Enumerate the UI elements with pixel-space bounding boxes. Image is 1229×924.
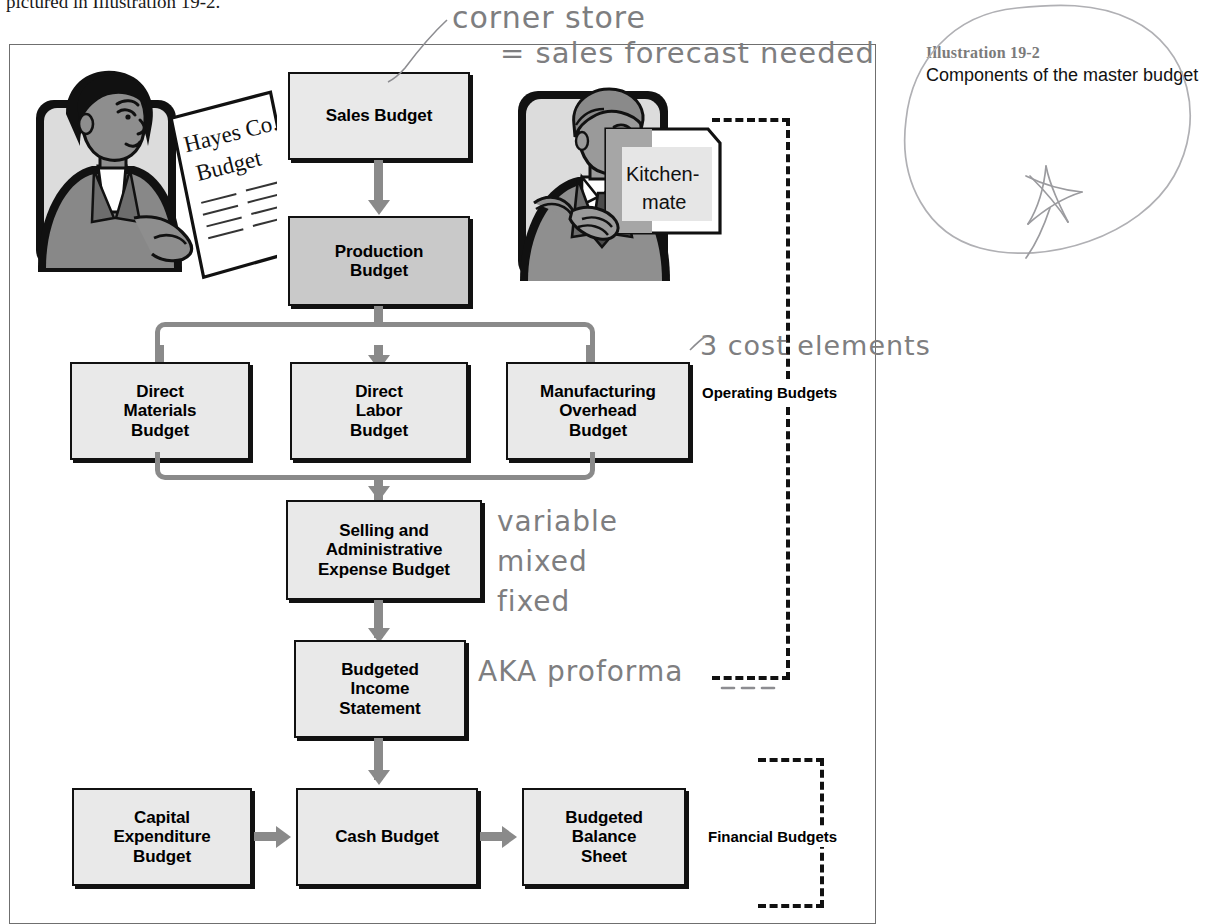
arrowhead-right-icon <box>502 826 517 848</box>
flow-box-manufacturing-overhead-budget[interactable]: ManufacturingOverheadBudget <box>506 362 690 460</box>
arrowhead-right-icon <box>276 826 291 848</box>
bracket-top-segment <box>758 758 824 762</box>
annotation-sales-forecast-needed: = sales forecast needed <box>500 36 875 70</box>
annotation-star <box>1026 166 1082 258</box>
annotation-three-cost-elements: 3 cost elements <box>700 330 931 361</box>
flow-box-label: Selling andAdministrativeExpense Budget <box>318 521 450 579</box>
arrowhead-down-icon <box>368 486 390 501</box>
flow-box-label: ProductionBudget <box>335 242 424 280</box>
page-cutoff-text: pictured in Illustration 19-2. <box>6 0 526 13</box>
svg-text:mate: mate <box>642 191 686 213</box>
arrow-capital-expenditure-to-cash <box>254 832 278 841</box>
illustration-caption: Illustration 19-2 Components of the mast… <box>926 44 1226 87</box>
annotation-mixed: mixed <box>497 545 588 578</box>
flow-box-label: BudgetedBalanceSheet <box>565 808 643 866</box>
connector-rail-bottom <box>155 452 595 480</box>
flow-box-budgeted-balance-sheet[interactable]: BudgetedBalanceSheet <box>522 788 686 886</box>
flow-box-cash-budget[interactable]: Cash Budget <box>296 788 478 886</box>
flow-box-direct-labor-budget[interactable]: DirectLaborBudget <box>290 362 468 460</box>
clipart-man-with-product-box: Kitchen- mate <box>512 85 728 300</box>
flow-box-label: DirectMaterialsBudget <box>124 382 197 440</box>
caption-title: Components of the master budget <box>926 64 1226 87</box>
annotation-circle-around-caption <box>905 5 1191 253</box>
arrowhead-down-icon <box>368 200 390 215</box>
clipart-woman-with-budget: Hayes Co. Budget <box>22 62 277 320</box>
arrow-cash-to-balance-sheet <box>480 832 504 841</box>
bracket-top-segment <box>712 118 790 122</box>
flow-box-direct-materials-budget[interactable]: DirectMaterialsBudget <box>70 362 250 460</box>
flow-box-label: DirectLaborBudget <box>350 382 408 440</box>
flow-box-budgeted-income-statement[interactable]: BudgetedIncomeStatement <box>294 640 466 738</box>
flow-box-label: Cash Budget <box>335 827 439 846</box>
flow-box-label: ManufacturingOverheadBudget <box>540 382 656 440</box>
flow-box-capital-expenditure-budget[interactable]: CapitalExpenditureBudget <box>72 788 252 886</box>
annotation-variable: variable <box>497 505 618 538</box>
group-label-financial-budgets: Financial Budgets <box>704 826 841 847</box>
flow-box-production-budget[interactable]: ProductionBudget <box>288 216 470 306</box>
svg-text:Kitchen-: Kitchen- <box>626 163 699 185</box>
annotation-fixed: fixed <box>497 585 570 618</box>
flow-box-label: Sales Budget <box>326 106 433 125</box>
annotation-aka-proforma: AKA proforma <box>478 655 683 688</box>
flow-box-label: BudgetedIncomeStatement <box>339 660 420 718</box>
caption-label: Illustration 19-2 <box>926 44 1226 62</box>
flow-box-selling-administrative-expense-budget[interactable]: Selling andAdministrativeExpense Budget <box>286 500 482 600</box>
flow-box-label: CapitalExpenditureBudget <box>113 808 210 866</box>
bracket-bottom-segment <box>712 676 790 680</box>
annotation-corner-store: corner store <box>452 0 646 35</box>
group-label-operating-budgets: Operating Budgets <box>698 382 841 403</box>
arrow-production-to-rail <box>374 306 383 324</box>
arrowhead-down-icon <box>368 770 390 785</box>
flow-box-sales-budget[interactable]: Sales Budget <box>288 72 470 160</box>
bracket-bottom-segment <box>758 904 824 908</box>
